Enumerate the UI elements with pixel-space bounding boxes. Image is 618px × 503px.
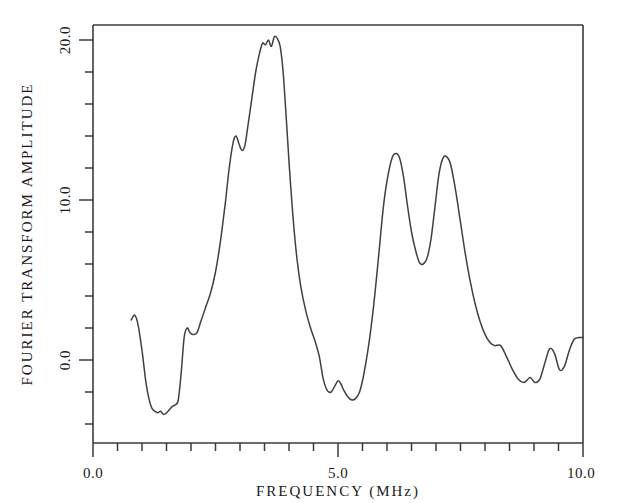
fourier-transform-plot: 20.0 10.0 0.0 0.0 5.0 10.0 FREQUENCY (MH… <box>0 0 618 503</box>
fourier-amplitude-curve <box>131 36 583 414</box>
y-tick-label-20: 20.0 <box>57 26 73 54</box>
x-tick-label-5: 5.0 <box>328 465 348 481</box>
x-tick-label-0: 0.0 <box>83 465 103 481</box>
y-axis-title: FOURIER TRANSFORM AMPLITUDE <box>19 83 35 386</box>
chart-page: 20.0 10.0 0.0 0.0 5.0 10.0 FREQUENCY (MH… <box>0 0 618 503</box>
y-tick-label-0: 0.0 <box>57 350 73 370</box>
y-tick-label-10: 10.0 <box>57 186 73 214</box>
x-axis-ticks <box>93 443 583 457</box>
x-tick-label-10: 10.0 <box>567 465 595 481</box>
y-axis-ticks <box>79 40 93 424</box>
x-axis-title: FREQUENCY (MHz) <box>256 483 420 500</box>
